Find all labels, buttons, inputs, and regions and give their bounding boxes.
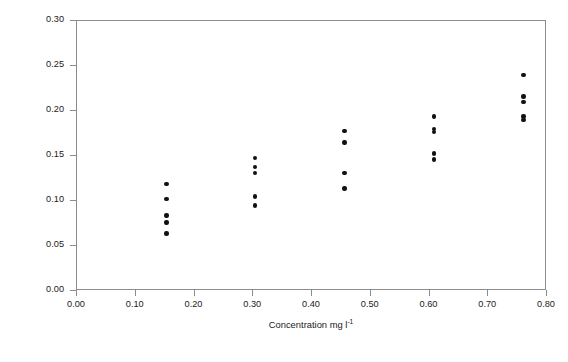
x-axis-tick bbox=[135, 290, 136, 296]
y-axis-tick bbox=[70, 20, 76, 21]
data-point bbox=[521, 100, 525, 104]
x-axis-tick-label: 0.70 bbox=[457, 300, 517, 309]
x-axis-tick bbox=[252, 290, 253, 296]
x-axis-tick-label: 0.50 bbox=[340, 300, 400, 309]
data-point bbox=[253, 165, 257, 169]
x-axis-tick-label: 0.30 bbox=[222, 300, 282, 309]
y-axis-tick-label: 0.15 bbox=[0, 150, 64, 159]
x-axis-tick bbox=[370, 290, 371, 296]
data-point bbox=[253, 194, 257, 198]
x-axis-tick bbox=[194, 290, 195, 296]
x-axis-tick bbox=[487, 290, 488, 296]
x-axis-tick bbox=[546, 290, 547, 296]
data-point bbox=[432, 151, 436, 155]
x-axis-title-exponent: -1 bbox=[347, 318, 353, 325]
x-axis-tick bbox=[76, 290, 77, 296]
data-point bbox=[432, 130, 436, 134]
plot-area bbox=[76, 20, 546, 290]
x-axis-title: Concentration mg l-1 bbox=[76, 318, 546, 330]
x-axis-tick bbox=[311, 290, 312, 296]
y-axis-tick-label: 0.20 bbox=[0, 105, 64, 114]
y-axis-tick bbox=[70, 110, 76, 111]
y-axis-tick-label: 0.30 bbox=[0, 15, 64, 24]
x-axis-tick bbox=[429, 290, 430, 296]
data-point bbox=[432, 114, 436, 118]
y-axis-tick bbox=[70, 155, 76, 156]
y-axis-tick bbox=[70, 65, 76, 66]
data-point bbox=[521, 94, 525, 98]
data-point bbox=[521, 73, 525, 77]
y-axis-tick-label: 0.05 bbox=[0, 240, 64, 249]
data-point bbox=[253, 203, 257, 207]
data-point bbox=[342, 140, 346, 144]
data-point bbox=[432, 157, 436, 161]
data-point-layer bbox=[77, 21, 545, 289]
data-point bbox=[521, 118, 525, 122]
x-axis-tick-label: 0.10 bbox=[105, 300, 165, 309]
x-axis-tick-label: 0.40 bbox=[281, 300, 341, 309]
data-point bbox=[164, 231, 168, 235]
data-point bbox=[342, 186, 346, 190]
data-point bbox=[253, 156, 257, 160]
y-axis-tick-label: 0.00 bbox=[0, 285, 64, 294]
x-axis-tick-label: 0.20 bbox=[164, 300, 224, 309]
scatter-plot-figure: 0.000.050.100.150.200.250.30 0.000.100.2… bbox=[0, 0, 568, 362]
x-axis-title-text: Concentration mg l bbox=[269, 319, 348, 330]
x-axis-tick-label: 0.00 bbox=[46, 300, 106, 309]
x-axis-tick-label: 0.60 bbox=[399, 300, 459, 309]
data-point bbox=[164, 220, 168, 224]
y-axis-tick-label: 0.25 bbox=[0, 60, 64, 69]
y-axis-tick bbox=[70, 200, 76, 201]
data-point bbox=[342, 129, 346, 133]
y-axis-tick bbox=[70, 245, 76, 246]
x-axis-tick-label: 0.80 bbox=[516, 300, 568, 309]
y-axis-tick-label: 0.10 bbox=[0, 195, 64, 204]
data-point bbox=[342, 171, 346, 175]
data-point bbox=[253, 171, 257, 175]
data-point bbox=[164, 213, 168, 217]
data-point bbox=[164, 182, 168, 186]
data-point bbox=[164, 197, 168, 201]
